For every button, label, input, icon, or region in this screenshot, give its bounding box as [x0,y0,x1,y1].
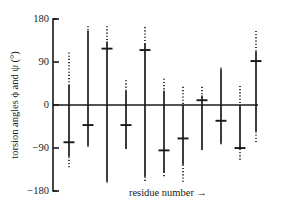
y-tick-label: 90 [39,56,50,67]
y-tick-label: 180 [33,13,49,24]
residue-column [178,87,189,184]
chart-canvas: 180900−90−180 residue number → torsion a… [0,0,283,208]
residue-column [216,68,227,144]
residue-column [121,80,132,149]
y-axis-title: torsion angles ϕ and ψ (°) [9,51,21,159]
x-axis-title: residue number → [129,187,207,198]
residue-column [83,26,94,147]
residue-column [197,87,208,151]
residue-column [251,31,262,143]
residue-column [64,52,75,169]
residue-column [235,86,246,161]
y-tick-label: −180 [27,185,49,196]
y-tick-label: −90 [33,142,49,153]
y-tick-label: 0 [44,99,49,110]
torsion-angle-chart: 180900−90−180 residue number → torsion a… [0,0,283,208]
residue-column [159,79,170,178]
